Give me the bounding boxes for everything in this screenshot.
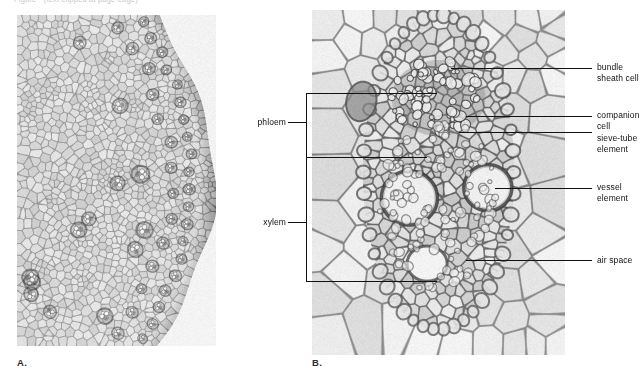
panel-b-micrograph — [312, 10, 565, 355]
label-bundle-sheath-cell: bundle sheath cell — [597, 62, 639, 83]
label-phloem: phloem — [238, 117, 286, 128]
panel-b-canvas — [312, 10, 565, 355]
clipped-page-header: Figure · (text clipped at page edge) — [14, 0, 214, 4]
panel-a-caption: A. — [17, 357, 27, 368]
panel-a-canvas — [17, 15, 216, 346]
label-vessel-element: vessel element — [597, 182, 628, 203]
panel-a-micrograph — [17, 15, 216, 346]
label-companion-cell: companion cell — [597, 110, 639, 131]
label-xylem: xylem — [238, 217, 286, 228]
label-sieve-tube-element: sieve-tube element — [597, 133, 637, 154]
label-air-space: air space — [597, 255, 632, 266]
panel-b-caption: B. — [312, 357, 322, 368]
